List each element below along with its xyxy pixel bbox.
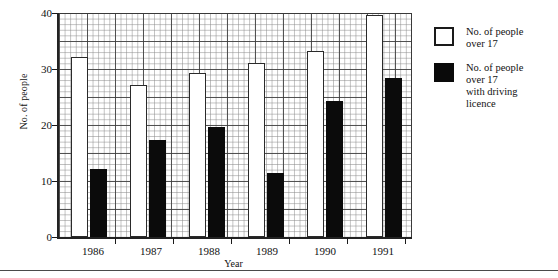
x-axis-title: Year (57, 258, 410, 269)
bar-filled-1990 (326, 101, 343, 237)
bar-filled-1991 (385, 78, 402, 237)
legend-label-filled-line-1: No. of people (466, 62, 554, 74)
y-tick-label-0: 0 (22, 232, 52, 243)
y-axis-tick-labels: 40 30 20 10 0 (22, 0, 52, 278)
x-tick-mark-1987 (173, 237, 174, 244)
bar-open-1989 (248, 63, 265, 237)
legend-label-filled: No. of people over 17 with driving licen… (466, 62, 554, 110)
legend-label-open: No. of people over 17 (466, 26, 554, 50)
legend-label-filled-line-4: licence (466, 98, 554, 110)
plot-area (57, 13, 412, 239)
bar-filled-1988 (208, 127, 225, 237)
legend-label-open-line-2: over 17 (466, 38, 554, 50)
chart-legend: No. of people over 17 No. of people over… (434, 26, 554, 122)
x-tick-label-1989: 1989 (237, 245, 297, 257)
bar-filled-1989 (267, 173, 284, 237)
legend-label-open-line-1: No. of people (466, 26, 554, 38)
chart-figure: No. of people 40 30 20 10 0 1986 1987 19… (0, 0, 558, 278)
y-tick-label-30: 30 (22, 64, 52, 75)
x-tick-mark-1991 (405, 237, 406, 244)
legend-entry-open: No. of people over 17 (434, 26, 554, 50)
bar-open-1990 (307, 51, 324, 237)
x-tick-mark-1988 (231, 237, 232, 244)
x-tick-label-1990: 1990 (295, 245, 355, 257)
footer-divider (0, 270, 558, 271)
legend-swatch-open-square-icon (434, 27, 454, 46)
legend-label-filled-line-3: with driving (466, 86, 554, 98)
y-tick-label-10: 10 (22, 176, 52, 187)
x-tick-label-1991: 1991 (353, 245, 413, 257)
x-tick-mark-1986 (115, 237, 116, 244)
y-tick-label-20: 20 (22, 120, 52, 131)
bar-filled-1987 (149, 140, 166, 237)
bar-open-1991 (366, 15, 383, 237)
bar-filled-1986 (90, 169, 107, 237)
bar-open-1988 (189, 73, 206, 237)
y-tick-label-40: 40 (22, 8, 52, 19)
x-tick-mark-1989 (289, 237, 290, 244)
x-tick-label-1987: 1987 (121, 245, 181, 257)
x-tick-label-1988: 1988 (179, 245, 239, 257)
bar-open-1987 (130, 85, 147, 237)
x-tick-mark-1990 (347, 237, 348, 244)
legend-swatch-filled-square-icon (434, 63, 454, 82)
legend-entry-filled: No. of people over 17 with driving licen… (434, 62, 554, 110)
x-tick-label-1986: 1986 (63, 245, 123, 257)
legend-label-filled-line-2: over 17 (466, 74, 554, 86)
bar-open-1986 (71, 57, 88, 237)
